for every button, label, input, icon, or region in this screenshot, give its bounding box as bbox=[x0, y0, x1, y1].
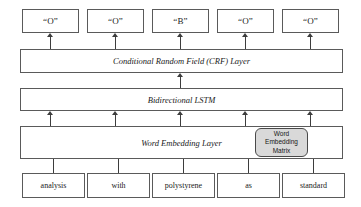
tag-box-5: “O” bbox=[282, 9, 339, 33]
arrowhead-embedding-to-lstm-5 bbox=[307, 111, 313, 115]
tag-label: “O” bbox=[238, 16, 253, 26]
crf-layer-box: Conditional Random Field (CRF) Layer bbox=[20, 49, 343, 73]
token-label: standard bbox=[300, 181, 327, 190]
word-embedding-layer-label: Word Embedding Layer bbox=[141, 138, 222, 148]
tag-box-1: “O” bbox=[22, 9, 79, 33]
arrowhead-crf-to-tag-1 bbox=[47, 33, 53, 37]
connector-embedding-to-lstm-2 bbox=[115, 115, 116, 126]
arrowhead-crf-to-tag-4 bbox=[242, 33, 248, 37]
arrowhead-lstm-to-crf bbox=[177, 73, 183, 77]
arrowhead-crf-to-tag-5 bbox=[307, 33, 313, 37]
connector-token-to-embedding-1 bbox=[53, 159, 54, 173]
token-box-4: as bbox=[217, 173, 280, 198]
connector-crf-to-tag-2 bbox=[115, 37, 116, 49]
token-label: analysis bbox=[41, 181, 67, 190]
token-box-3: polystyrene bbox=[152, 173, 215, 198]
connector-crf-to-tag-5 bbox=[310, 37, 311, 49]
bidirectional-lstm-box: Bidirectional LSTM bbox=[20, 88, 343, 111]
connector-embedding-to-lstm-5 bbox=[310, 115, 311, 126]
word-embedding-matrix-line-1: Word bbox=[274, 130, 289, 138]
arrowhead-embedding-to-lstm-2 bbox=[112, 111, 118, 115]
tag-box-2: “O” bbox=[87, 9, 144, 33]
connector-token-to-embedding-3 bbox=[183, 159, 184, 173]
connector-embedding-to-lstm-1 bbox=[50, 115, 51, 126]
connector-lstm-to-crf bbox=[180, 77, 181, 88]
connector-embedding-to-lstm-4 bbox=[245, 115, 246, 126]
crf-layer-label: Conditional Random Field (CRF) Layer bbox=[113, 56, 250, 66]
tag-label: “O” bbox=[303, 16, 318, 26]
connector-token-to-embedding-2 bbox=[118, 159, 119, 173]
arrowhead-embedding-to-lstm-3 bbox=[177, 111, 183, 115]
arrowhead-crf-to-tag-3 bbox=[177, 33, 183, 37]
tag-label: “O” bbox=[43, 16, 58, 26]
tag-label: “O” bbox=[108, 16, 123, 26]
tag-label: “B” bbox=[173, 16, 188, 26]
token-label: with bbox=[111, 181, 125, 190]
token-label: as bbox=[245, 181, 252, 190]
word-embedding-matrix-line-2: Embedding bbox=[265, 138, 298, 146]
word-embedding-matrix-line-3: Matrix bbox=[273, 147, 291, 155]
token-box-2: with bbox=[87, 173, 150, 198]
token-label: polystyrene bbox=[165, 181, 202, 190]
connector-crf-to-tag-3 bbox=[180, 37, 181, 49]
connector-embedding-to-lstm-3 bbox=[180, 115, 181, 126]
word-embedding-matrix-box: Word Embedding Matrix bbox=[255, 128, 308, 157]
connector-token-to-embedding-5 bbox=[313, 159, 314, 173]
token-box-1: analysis bbox=[22, 173, 85, 198]
bilstm-crf-diagram: “O” “O” “B” “O” “O” Conditional Random F… bbox=[0, 0, 361, 207]
arrowhead-embedding-to-lstm-1 bbox=[47, 111, 53, 115]
connector-token-to-embedding-4 bbox=[248, 159, 249, 173]
tag-box-4: “O” bbox=[217, 9, 274, 33]
connector-crf-to-tag-1 bbox=[50, 37, 51, 49]
connector-crf-to-tag-4 bbox=[245, 37, 246, 49]
arrowhead-embedding-to-lstm-4 bbox=[242, 111, 248, 115]
arrowhead-crf-to-tag-2 bbox=[112, 33, 118, 37]
bidirectional-lstm-label: Bidirectional LSTM bbox=[148, 95, 215, 105]
token-box-5: standard bbox=[282, 173, 345, 198]
tag-box-3: “B” bbox=[152, 9, 209, 33]
